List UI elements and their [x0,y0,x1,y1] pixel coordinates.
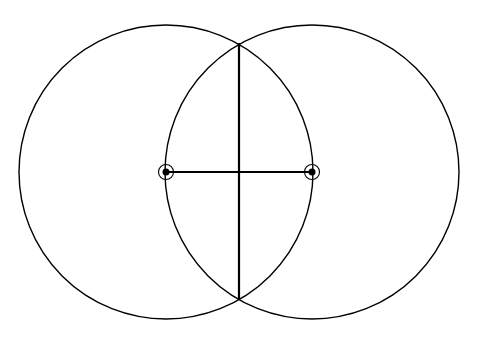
construction-diagram [0,0,479,340]
point-dot-icon [163,169,170,176]
point-dot-icon [309,169,316,176]
segments-group [166,43,312,300]
